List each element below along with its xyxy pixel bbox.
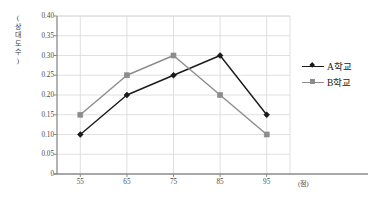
chart-legend: A학교 B학교: [302, 58, 380, 90]
legend-point-a: [309, 62, 315, 68]
y-tick-label: 0.30: [28, 52, 54, 60]
plot-area: [0, 0, 384, 204]
legend-marker-b-icon: [302, 76, 324, 88]
x-tick-label: 65: [115, 178, 139, 186]
y-tick-label: 0.10: [28, 131, 54, 139]
x-axis-unit-label: (점): [298, 178, 309, 188]
x-tick-label: 95: [255, 178, 279, 186]
y-tick-label: 0.05: [28, 150, 54, 158]
y-tick-label: 0.40: [28, 12, 54, 20]
legend-item-a: A학교: [302, 58, 380, 74]
y-tick-label: 0.20: [28, 91, 54, 99]
data-point-b: [264, 132, 269, 137]
x-tick-label: 75: [162, 178, 186, 186]
y-tick-label: 0: [28, 170, 54, 178]
x-axis-tick-labels: 5565758595: [0, 178, 384, 192]
legend-marker-a-icon: [302, 60, 324, 72]
legend-label-a: A학교: [324, 59, 352, 73]
y-axis-tick-labels: 00.050.100.150.200.250.300.350.40: [28, 0, 54, 204]
relative-frequency-polygon-chart: ( 상 대 도 수 ) 00.050.100.150.200.250.300.3…: [0, 0, 384, 204]
x-tick-label: 55: [68, 178, 92, 186]
x-tick-label: 85: [208, 178, 232, 186]
data-point-b: [124, 73, 129, 78]
legend-label-b: B학교: [324, 75, 351, 89]
data-point-b: [78, 112, 83, 117]
data-point-b: [218, 93, 223, 98]
legend-point-b: [310, 79, 315, 84]
data-point-a: [171, 72, 177, 78]
y-tick-label: 0.15: [28, 111, 54, 119]
legend-item-b: B학교: [302, 74, 380, 90]
data-point-b: [171, 53, 176, 58]
y-tick-label: 0.25: [28, 71, 54, 79]
y-tick-label: 0.35: [28, 32, 54, 40]
